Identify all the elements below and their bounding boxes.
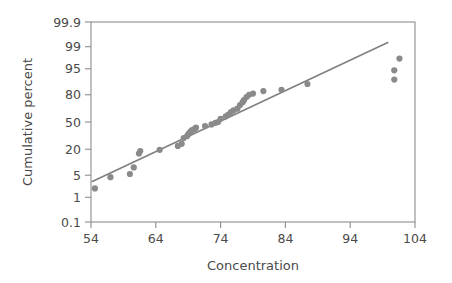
data-point	[304, 81, 310, 87]
x-axis-ticks	[91, 222, 415, 228]
data-point	[137, 148, 143, 154]
data-point	[107, 174, 113, 180]
data-point	[250, 90, 256, 96]
data-point	[391, 67, 397, 73]
data-point	[202, 123, 208, 129]
y-tick-label: 95	[65, 61, 81, 76]
data-point	[127, 171, 133, 177]
y-axis-ticks	[85, 22, 91, 222]
data-point	[179, 141, 185, 147]
data-point	[92, 185, 98, 191]
x-tick-label: 104	[403, 231, 427, 246]
y-tick-label: 99	[65, 39, 81, 54]
data-point	[131, 164, 137, 170]
y-tick-label: 20	[65, 142, 81, 157]
probability-plot-figure: 99.99995805020510.1 5464748494104 Concen…	[0, 0, 452, 283]
y-axis-title: Cumulative percent	[20, 58, 35, 186]
x-tick-label: 54	[83, 231, 99, 246]
data-point	[157, 147, 163, 153]
y-tick-label: 80	[65, 87, 81, 102]
x-axis-tick-labels: 5464748494104	[83, 231, 427, 246]
x-tick-label: 74	[213, 231, 229, 246]
y-tick-label: 99.9	[53, 15, 81, 30]
plot-canvas: 99.99995805020510.1 5464748494104 Concen…	[0, 0, 452, 283]
x-tick-label: 94	[342, 231, 358, 246]
y-tick-label: 50	[65, 115, 81, 130]
y-axis-tick-labels: 99.99995805020510.1	[53, 15, 81, 230]
x-axis-title: Concentration	[207, 258, 299, 273]
data-point	[396, 55, 402, 61]
x-tick-label: 84	[277, 231, 293, 246]
data-point	[260, 88, 266, 94]
data-point	[278, 87, 284, 93]
fit-line	[92, 42, 387, 181]
y-tick-label: 1	[73, 190, 81, 205]
y-tick-label: 5	[73, 168, 81, 183]
scatter-points	[92, 55, 403, 191]
y-tick-label: 0.1	[61, 215, 81, 230]
x-tick-label: 64	[148, 231, 164, 246]
data-point	[193, 125, 199, 131]
reference-line	[92, 42, 387, 181]
data-point	[391, 76, 397, 82]
